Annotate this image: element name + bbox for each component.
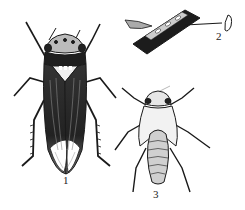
figure-label-nymph: 3 (153, 189, 159, 200)
adult-leafhopper-drawing (14, 22, 116, 174)
figure-label-adult: 1 (63, 175, 69, 186)
leafhopper-illustration (0, 0, 245, 210)
nymph-drawing (115, 86, 210, 192)
figure-label-egg: 2 (216, 31, 222, 42)
